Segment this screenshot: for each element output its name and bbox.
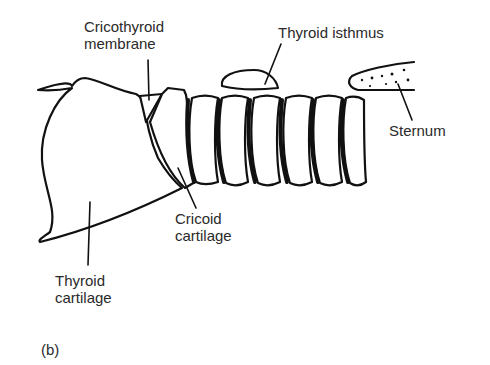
label-cricoid-cartilage: Cricoid cartilage bbox=[175, 210, 232, 244]
label-thyroid-cartilage: Thyroid cartilage bbox=[55, 272, 112, 306]
label-line: Thyroid bbox=[55, 272, 112, 289]
label-line: Sternum bbox=[389, 122, 446, 139]
label-line: cartilage bbox=[55, 289, 112, 306]
label-line: cartilage bbox=[175, 227, 232, 244]
label-line: Cricoid bbox=[175, 210, 232, 227]
label-thyroid-isthmus: Thyroid isthmus bbox=[278, 24, 384, 41]
label-cricothyroid-membrane: Cricothyroid membrane bbox=[84, 18, 164, 52]
label-line: membrane bbox=[84, 35, 164, 52]
larynx-trachea-illustration bbox=[0, 0, 490, 365]
label-line: Thyroid isthmus bbox=[278, 24, 384, 41]
panel-label: (b) bbox=[41, 341, 59, 358]
label-line: Cricothyroid bbox=[84, 18, 164, 35]
airway-anatomy-diagram: Cricothyroid membrane Thyroid isthmus St… bbox=[0, 0, 490, 365]
leader-thyroid-cartilage bbox=[88, 202, 90, 265]
label-sternum: Sternum bbox=[389, 122, 446, 139]
leader-cricothyroid bbox=[148, 60, 149, 100]
